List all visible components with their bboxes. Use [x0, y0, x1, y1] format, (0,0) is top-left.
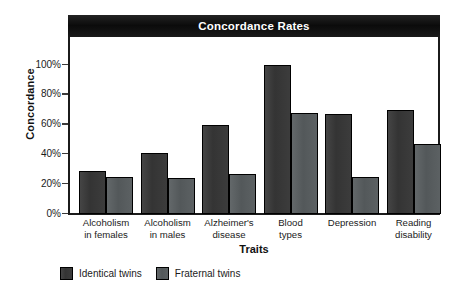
bar-identical	[387, 110, 414, 214]
legend-swatch	[156, 267, 169, 280]
chart-title: Concordance Rates	[198, 20, 309, 32]
bar-group	[387, 37, 441, 214]
chart-title-banner: Concordance Rates	[68, 15, 440, 37]
bar-identical	[79, 171, 106, 214]
bar-fraternal	[414, 144, 441, 214]
y-axis-tick: 100%	[0, 58, 68, 70]
legend-item: Fraternal twins	[156, 267, 241, 280]
y-axis-tick-mark	[62, 93, 68, 95]
y-axis-tick-mark	[62, 153, 68, 155]
x-axis-tick-label-line: Reading	[377, 217, 451, 229]
y-axis-tick: 60%	[0, 118, 68, 130]
y-axis-tick-mark	[62, 213, 68, 215]
bar-fraternal	[291, 113, 318, 214]
bar-group	[79, 37, 133, 214]
chart-legend: Identical twinsFraternal twins	[60, 265, 400, 281]
x-axis-title: Traits	[68, 243, 440, 255]
x-axis-tick-label-line: disability	[377, 229, 451, 241]
bar-fraternal	[229, 174, 256, 214]
bar-identical	[141, 153, 168, 214]
x-axis-tick-label-line: types	[254, 229, 328, 241]
legend-item: Identical twins	[60, 267, 142, 280]
y-axis-tick-mark	[62, 183, 68, 185]
y-axis-tick: 20%	[0, 177, 68, 189]
bar-group	[325, 37, 379, 214]
legend-swatch	[60, 267, 73, 280]
bar-group	[264, 37, 318, 214]
y-axis-tick: 0%	[0, 207, 68, 219]
bar-identical	[264, 65, 291, 214]
y-axis-tick: 80%	[0, 88, 68, 100]
legend-label: Fraternal twins	[175, 268, 241, 279]
x-axis-tick-label: Readingdisability	[377, 217, 451, 240]
y-axis-tick: 40%	[0, 147, 68, 159]
bar-identical	[202, 125, 229, 214]
bars-layer	[70, 37, 438, 214]
bar-group	[202, 37, 256, 214]
bar-fraternal	[106, 177, 133, 214]
bar-identical	[325, 114, 352, 214]
legend-label: Identical twins	[79, 268, 142, 279]
y-axis-tick-mark	[62, 64, 68, 66]
bar-fraternal	[168, 178, 195, 214]
y-axis-tick-mark	[62, 123, 68, 125]
concordance-rates-chart: Concordance Rates Concordance 100%80%60%…	[0, 0, 461, 295]
bar-fraternal	[352, 177, 379, 214]
bar-group	[141, 37, 195, 214]
